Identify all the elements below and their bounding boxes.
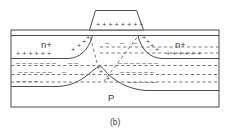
- drain-region-label: n+: [175, 39, 186, 50]
- depl-row-l1: – – – – – – –: [16, 58, 56, 67]
- source-charge-extra-4: +: [86, 33, 90, 42]
- channel-minus-2: –: [120, 38, 124, 47]
- depl-row-m2: –: [62, 67, 66, 76]
- drain-charge-row: + + + + + +: [166, 49, 201, 58]
- figure-caption: (b): [110, 117, 121, 127]
- gate-charge-row: + + + + + + + +: [96, 20, 144, 29]
- depl-row-m1: – –: [68, 58, 78, 67]
- channel-minus-1: –: [105, 38, 109, 47]
- source-region-label: n+: [41, 39, 52, 50]
- depl-row-r3: – – – – –: [128, 77, 156, 86]
- channel-minus-3: –: [133, 38, 137, 47]
- mosfet-cross-section-diagram: + + + + + + + + + + + +: [0, 0, 231, 132]
- depl-row-r2: – – – – – –: [120, 67, 154, 76]
- drain-charge-extra-2: +: [150, 41, 154, 50]
- gate-positive-charges: + + + + + + + +: [96, 20, 144, 29]
- substrate-region-label: P: [108, 92, 114, 103]
- drain-charge-extra-4: +: [142, 33, 146, 42]
- drain-charge-extra-3: +: [146, 37, 150, 46]
- caption-text: (b): [110, 117, 121, 127]
- depl-row-l2: – – – – – –: [18, 67, 52, 76]
- channel-minus-5: +: [106, 74, 110, 83]
- drain-charge-extra-1: +: [155, 45, 159, 54]
- channel-minus-4: +: [99, 67, 103, 76]
- source-charge-extra-1: +: [71, 45, 75, 54]
- depl-row-r1: – – – – – – –: [118, 58, 158, 67]
- source-charge-row: + + + + + +: [16, 49, 51, 58]
- source-charge-extra-2: +: [77, 41, 81, 50]
- depl-row-l3: – – – –: [16, 76, 38, 85]
- figure-container: + + + + + + + + + + + +: [0, 0, 231, 132]
